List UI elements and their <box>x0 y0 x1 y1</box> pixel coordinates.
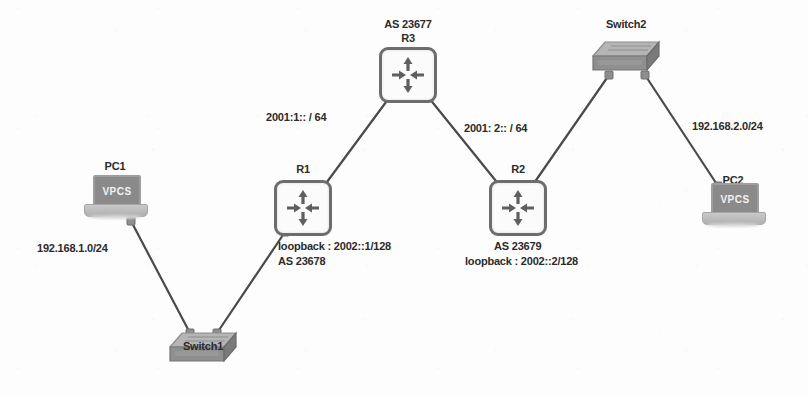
link-pc1-switch1 <box>131 221 190 333</box>
link-label-r1-r3: 2001:1:: / 64 <box>266 111 326 123</box>
link-r1-r3 <box>324 98 389 186</box>
router-arrows-icon <box>495 186 541 230</box>
subnet-label-pc2: 192.168.2.0/24 <box>692 120 763 132</box>
switch-3d-box-icon <box>589 38 667 80</box>
pc1-name-label: PC1 <box>105 160 126 172</box>
r3-as-label: AS 23677 <box>384 18 431 30</box>
r1-name-label: R1 <box>296 163 310 175</box>
link-label-r3-r2: 2001: 2:: / 64 <box>464 122 527 134</box>
laptop-icon[interactable]: VPCS <box>84 173 146 221</box>
network-topology-diagram: AS 23677 R3 R1 loopbac <box>0 0 808 395</box>
switch-icon[interactable] <box>589 38 663 76</box>
laptop-shadow <box>88 215 142 219</box>
router-r1[interactable] <box>274 180 332 236</box>
r2-as-label: AS 23679 <box>494 239 541 254</box>
switch1-name-label: Switch1 <box>183 340 223 352</box>
laptop-pc1[interactable]: VPCS <box>84 173 146 221</box>
laptop-icon[interactable]: VPCS <box>702 181 764 229</box>
router-r3[interactable] <box>379 47 437 103</box>
r1-loopback-label: loopback : 2002::1/128 <box>278 239 391 254</box>
laptop-shadow <box>706 223 760 227</box>
r3-name-label: R3 <box>401 32 415 44</box>
laptop-screen: VPCS <box>711 183 759 215</box>
router-icon[interactable] <box>489 180 547 236</box>
r2-loopback-label: loopback : 2002::2/128 <box>465 254 578 269</box>
link-r3-r2 <box>429 98 500 186</box>
switch-switch2[interactable] <box>589 38 663 76</box>
r1-as-label: AS 23678 <box>278 254 325 269</box>
router-r2[interactable] <box>489 180 547 236</box>
laptop-screen: VPCS <box>93 175 141 207</box>
r2-name-label: R2 <box>511 163 525 175</box>
router-arrows-icon <box>385 53 431 97</box>
pc2-screen-text: VPCS <box>720 194 749 205</box>
router-arrows-icon <box>280 186 326 230</box>
link-switch1-r1 <box>217 232 285 333</box>
laptop-pc2[interactable]: VPCS <box>702 181 764 229</box>
subnet-label-pc1: 192.168.1.0/24 <box>37 242 108 254</box>
pc1-screen-text: VPCS <box>102 186 131 197</box>
link-r2-switch2 <box>532 75 609 186</box>
router-icon[interactable] <box>379 47 437 103</box>
router-icon[interactable] <box>274 180 332 236</box>
switch2-name-label: Switch2 <box>606 18 646 30</box>
